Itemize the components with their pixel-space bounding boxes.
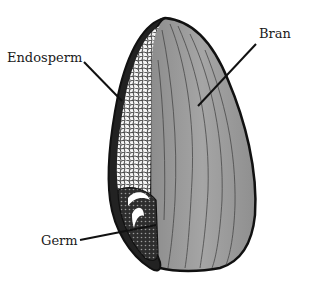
endosperm-leader-line — [84, 62, 122, 101]
bran-label: Bran — [259, 27, 291, 40]
endosperm-label: Endosperm — [7, 51, 82, 64]
wheat-kernel-diagram: Endosperm Bran Germ — [0, 0, 311, 286]
germ-label: Germ — [41, 234, 78, 247]
bran-layer — [149, 18, 255, 271]
germ-layer — [118, 188, 158, 261]
